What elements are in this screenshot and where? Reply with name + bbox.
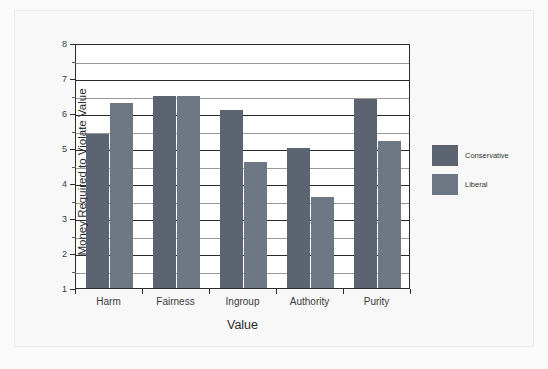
bar-group — [153, 45, 200, 288]
x-tick-label-purity: Purity — [364, 296, 390, 307]
bar-group — [287, 45, 334, 288]
bar-group — [86, 45, 133, 288]
x-tick-label-ingroup: Ingroup — [226, 296, 260, 307]
x-tick-label-authority: Authority — [290, 296, 329, 307]
y-tick-label: 7 — [62, 74, 67, 84]
bar-harm-conservative — [86, 134, 109, 288]
x-tick-label-harm: Harm — [96, 296, 120, 307]
x-tick — [209, 289, 210, 294]
bar-group — [354, 45, 401, 288]
bar-fairness-liberal — [177, 96, 200, 289]
y-tick-label: 8 — [62, 39, 67, 49]
legend-swatch-liberal — [432, 174, 458, 195]
y-axis-title: Money Required to Violate Value — [76, 47, 88, 297]
y-tick-label: 2 — [62, 249, 67, 259]
y-tick-label: 3 — [62, 214, 67, 224]
x-tick — [410, 289, 411, 294]
bar-harm-liberal — [110, 103, 133, 289]
y-tick-label: 1 — [62, 284, 67, 294]
x-axis-title: Value — [75, 318, 410, 332]
bar-fairness-conservative — [153, 96, 176, 289]
bar-ingroup-liberal — [244, 162, 267, 288]
x-tick — [75, 289, 76, 294]
legend-label-liberal: Liberal — [465, 180, 488, 189]
x-tick — [276, 289, 277, 294]
bars-container — [76, 45, 409, 288]
legend-label-conservative: Conservative — [465, 151, 509, 160]
x-axis: HarmFairnessIngroupAuthorityPurity — [75, 289, 410, 296]
bar-purity-conservative — [354, 99, 377, 288]
x-tick — [142, 289, 143, 294]
y-tick-label: 6 — [62, 109, 67, 119]
bar-authority-liberal — [311, 197, 334, 288]
bar-group — [220, 45, 267, 288]
y-tick-major — [70, 44, 76, 45]
bar-purity-liberal — [378, 141, 401, 288]
x-tick — [343, 289, 344, 294]
chart-legend: ConservativeLiberal — [432, 145, 509, 203]
bar-authority-conservative — [287, 148, 310, 288]
legend-item-liberal: Liberal — [432, 174, 509, 195]
x-tick-label-fairness: Fairness — [156, 296, 194, 307]
plot-area — [75, 44, 410, 289]
chart-figure: 12345678 Money Required to Violate Value… — [0, 0, 548, 369]
legend-swatch-conservative — [432, 145, 458, 166]
legend-item-conservative: Conservative — [432, 145, 509, 166]
y-tick-label: 4 — [62, 179, 67, 189]
bar-ingroup-conservative — [220, 110, 243, 289]
y-axis: 12345678 — [68, 44, 76, 289]
y-tick-label: 5 — [62, 144, 67, 154]
